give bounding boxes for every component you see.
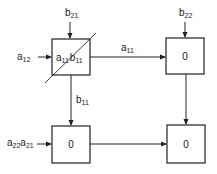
edge-b11: b11	[71, 75, 89, 125]
input-a22-a21: a22a21	[7, 137, 51, 149]
cell-bottom-left-value: 0	[68, 139, 74, 150]
input-a22-a21-label: a22a21	[7, 137, 34, 149]
cell-bottom-right: 0	[167, 125, 205, 163]
edge-b11-label: b11	[76, 94, 89, 106]
systolic-array-diagram: a11b11 0 0 0 b21 b22 a12 a22a21 a11 b11	[0, 0, 217, 174]
cell-top-right-value: 0	[182, 51, 188, 62]
input-b21-label: b21	[65, 7, 78, 19]
cell-bottom-left: 0	[52, 126, 90, 163]
input-a12-label: a12	[17, 51, 30, 63]
input-b22-label: b22	[179, 7, 192, 19]
edge-a11: a11	[90, 42, 165, 57]
cell-top-left-label: a11b11	[56, 52, 83, 64]
cell-top-right: 0	[166, 38, 204, 74]
input-b21: b21	[65, 7, 78, 38]
cell-bottom-right-value: 0	[183, 139, 189, 150]
input-b22: b22	[179, 7, 192, 37]
input-a12: a12	[17, 51, 51, 63]
edge-a11-label: a11	[121, 42, 134, 54]
